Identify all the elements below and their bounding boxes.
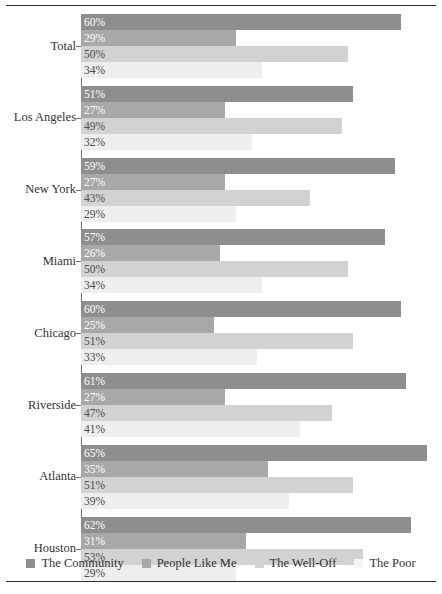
bar-value-label: 65% (84, 445, 105, 461)
legend-item-the-well-off[interactable]: The Well-Off (255, 556, 337, 571)
bar-row: 50% (81, 261, 442, 277)
category-label-miami: Miami (0, 255, 76, 268)
bar-the-poor (81, 421, 300, 437)
legend-swatch-icon (354, 559, 363, 568)
bar-the-poor (81, 349, 257, 365)
bar-the-community (81, 14, 401, 30)
bar-the-poor (81, 134, 252, 150)
bar-the-well-off (81, 333, 353, 349)
bar-value-label: 61% (84, 373, 105, 389)
bar-row: 43% (81, 190, 442, 206)
bar-row: 49% (81, 118, 442, 134)
bar-value-label: 34% (84, 62, 105, 78)
bar-value-label: 34% (84, 277, 105, 293)
bar-row: 32% (81, 134, 442, 150)
legend-item-the-poor[interactable]: The Poor (354, 556, 415, 571)
bar-value-label: 39% (84, 493, 105, 509)
bar-group: Miami57%26%50%34% (0, 229, 442, 293)
bar-value-label: 59% (84, 158, 105, 174)
bar-row: 60% (81, 14, 442, 30)
bar-the-poor (81, 277, 262, 293)
bar-value-label: 60% (84, 14, 105, 30)
bar-row: 51% (81, 86, 442, 102)
bar-row: 47% (81, 405, 442, 421)
bar-people-like-me (81, 533, 246, 549)
bar-group: New York59%27%43%29% (0, 158, 442, 222)
bar-the-well-off (81, 477, 353, 493)
bar-row: 25% (81, 317, 442, 333)
legend-item-the-community[interactable]: The Community (26, 556, 123, 571)
bottom-divider-rule (6, 581, 436, 582)
bar-row: 29% (81, 30, 442, 46)
bar-value-label: 31% (84, 533, 105, 549)
bar-row: 35% (81, 461, 442, 477)
bar-row: 27% (81, 389, 442, 405)
legend-item-people-like-me[interactable]: People Like Me (142, 556, 237, 571)
category-label-total: Total (0, 40, 76, 53)
bar-row: 27% (81, 102, 442, 118)
bar-the-poor (81, 493, 289, 509)
bar-row: 59% (81, 158, 442, 174)
bar-value-label: 50% (84, 46, 105, 62)
bar-row: 65% (81, 445, 442, 461)
bar-value-label: 60% (84, 301, 105, 317)
bar-value-label: 51% (84, 333, 105, 349)
legend-label: The Community (41, 556, 123, 571)
bar-value-label: 47% (84, 405, 105, 421)
bar-row: 60% (81, 301, 442, 317)
bar-value-label: 51% (84, 86, 105, 102)
bar-the-well-off (81, 405, 332, 421)
bar-the-poor (81, 62, 262, 78)
bar-value-label: 51% (84, 477, 105, 493)
category-label-los-angeles: Los Angeles (0, 111, 76, 124)
bar-row: 51% (81, 477, 442, 493)
bar-value-label: 32% (84, 134, 105, 150)
chart-legend: The CommunityPeople Like MeThe Well-OffT… (0, 553, 442, 573)
bar-group: Riverside61%27%47%41% (0, 373, 442, 437)
bar-the-community (81, 86, 353, 102)
bar-row: 34% (81, 62, 442, 78)
bar-value-label: 62% (84, 517, 105, 533)
bar-row: 33% (81, 349, 442, 365)
bar-value-label: 25% (84, 317, 105, 333)
bar-the-well-off (81, 118, 342, 134)
bar-the-community (81, 229, 385, 245)
bar-group: Total60%29%50%34% (0, 14, 442, 78)
legend-label: The Poor (369, 556, 415, 571)
bar-value-label: 26% (84, 245, 105, 261)
grouped-bar-chart-plot: Total60%29%50%34%Los Angeles51%27%49%32%… (0, 14, 442, 540)
bar-group: Atlanta65%35%51%39% (0, 445, 442, 509)
bar-value-label: 27% (84, 102, 105, 118)
bar-value-label: 57% (84, 229, 105, 245)
bar-value-label: 29% (84, 206, 105, 222)
bar-group: Los Angeles51%27%49%32% (0, 86, 442, 150)
bar-row: 27% (81, 174, 442, 190)
bar-value-label: 50% (84, 261, 105, 277)
bar-the-community (81, 158, 395, 174)
bar-row: 57% (81, 229, 442, 245)
category-label-atlanta: Atlanta (0, 470, 76, 483)
category-label-chicago: Chicago (0, 327, 76, 340)
bar-row: 29% (81, 206, 442, 222)
chart-page: Total60%29%50%34%Los Angeles51%27%49%32%… (0, 0, 442, 594)
bar-value-label: 27% (84, 174, 105, 190)
legend-label: The Well-Off (270, 556, 337, 571)
bar-value-label: 43% (84, 190, 105, 206)
bar-the-well-off (81, 46, 348, 62)
top-divider-rule (6, 5, 436, 6)
bar-row: 34% (81, 277, 442, 293)
bar-row: 62% (81, 517, 442, 533)
bar-row: 31% (81, 533, 442, 549)
bar-the-well-off (81, 190, 310, 206)
bar-value-label: 29% (84, 30, 105, 46)
legend-swatch-icon (142, 559, 151, 568)
legend-swatch-icon (26, 559, 35, 568)
bar-people-like-me (81, 461, 268, 477)
legend-label: People Like Me (157, 556, 237, 571)
bar-the-community (81, 445, 427, 461)
bar-row: 41% (81, 421, 442, 437)
bar-value-label: 41% (84, 421, 105, 437)
bar-value-label: 49% (84, 118, 105, 134)
category-label-riverside: Riverside (0, 399, 76, 412)
bar-row: 26% (81, 245, 442, 261)
